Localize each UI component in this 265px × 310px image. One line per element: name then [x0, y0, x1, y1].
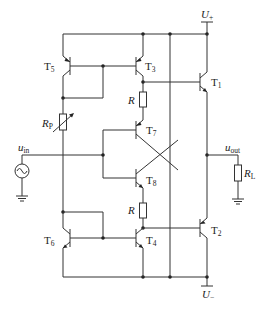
- transistor-t2: [200, 155, 207, 277]
- negative-supply-label: U−: [202, 288, 214, 302]
- t8-label: T8: [146, 174, 157, 188]
- input-label: uin: [18, 141, 30, 155]
- resistor-r-upper: [140, 92, 147, 107]
- sine-source-icon: [15, 164, 29, 178]
- resistor-r-lower: [140, 203, 147, 218]
- rp-label: RP: [41, 117, 53, 131]
- rl-label: RL: [243, 167, 256, 181]
- r-upper-label: R: [127, 94, 135, 106]
- bottom-supply-rail: [63, 275, 213, 286]
- transistor-t4: [136, 228, 143, 277]
- transistor-t8: [136, 140, 178, 203]
- ground-icon: [232, 199, 244, 204]
- resistor-rp: [60, 114, 67, 130]
- transistor-t5: [63, 34, 70, 98]
- t7-label: T7: [146, 124, 157, 138]
- output-label: uout: [225, 141, 241, 155]
- t6-label: T6: [44, 234, 55, 248]
- t3-label: T3: [145, 60, 156, 74]
- resistor-rl: [235, 165, 242, 181]
- r-lower-label: R: [127, 204, 135, 216]
- transistor-t1: [200, 34, 207, 155]
- ground-icon: [16, 196, 28, 201]
- t2-label: T2: [211, 224, 222, 238]
- t4-label: T4: [146, 234, 157, 248]
- top-supply-rail: [63, 22, 213, 36]
- transistor-t6: [63, 212, 70, 277]
- circuit-diagram: U+ U− T5 T3 R: [0, 0, 265, 310]
- t1-label: T1: [211, 76, 222, 90]
- positive-supply-label: U+: [201, 8, 213, 22]
- t5-label: T5: [44, 60, 55, 74]
